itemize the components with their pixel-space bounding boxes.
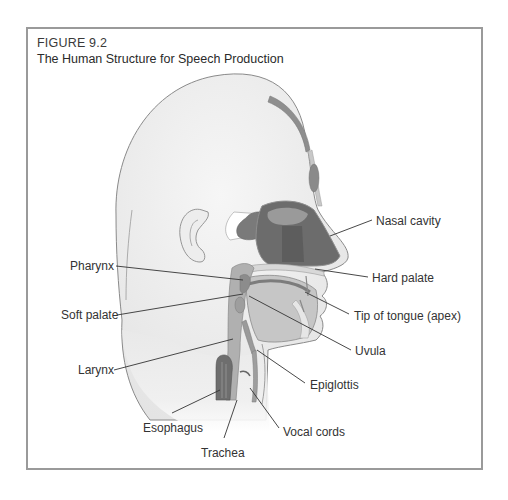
label-trachea: Trachea: [201, 446, 245, 460]
label-nasal-cavity: Nasal cavity: [376, 214, 441, 228]
label-uvula: Uvula: [355, 344, 386, 358]
oral-region: [246, 275, 318, 342]
label-epiglottis: Epiglottis: [310, 378, 359, 392]
speech-anatomy-illustration: [0, 0, 508, 500]
leader-line-nasal-cavity: [330, 220, 372, 236]
label-pharynx: Pharynx: [70, 259, 114, 273]
nasal-cavity-shape: [256, 201, 340, 266]
label-tip-of-tongue: Tip of tongue (apex): [354, 309, 461, 323]
label-vocal-cords: Vocal cords: [283, 425, 345, 439]
label-soft-palate: Soft palate: [61, 308, 118, 322]
label-larynx: Larynx: [78, 363, 114, 377]
label-hard-palate: Hard palate: [372, 271, 434, 285]
label-esophagus: Esophagus: [143, 421, 203, 435]
